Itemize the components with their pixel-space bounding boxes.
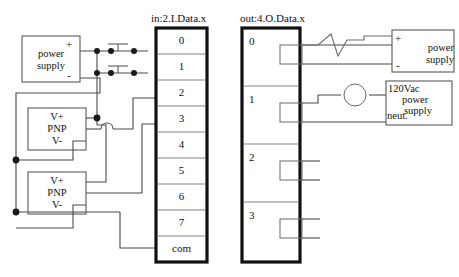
sensor-2-vplus: V+ <box>28 175 86 186</box>
sensor-2-vminus: V- <box>28 199 86 210</box>
sensor-1-vminus: V- <box>28 135 86 146</box>
right-power-supply-label-1: power <box>400 42 454 53</box>
wire-com-to-block <box>120 212 156 248</box>
ac-power-supply-label-1: 120Vac <box>388 83 420 94</box>
left-power-supply-minus: - <box>67 70 71 81</box>
output-block-outline <box>242 28 300 262</box>
input-terminal-2[interactable]: 2 <box>156 87 207 98</box>
input-terminal-5[interactable]: 5 <box>156 165 207 176</box>
input-terminal-7[interactable]: 7 <box>156 217 207 228</box>
sensor-1-vplus: V+ <box>28 111 86 122</box>
output-terminal-2[interactable]: 2 <box>249 152 255 163</box>
output-terminal-0[interactable]: 0 <box>249 36 255 47</box>
input-block-title: in:2.I.Data.x <box>151 13 206 25</box>
wire-out1-hi <box>302 95 341 103</box>
ac-power-supply-label-3: supply <box>404 105 432 116</box>
right-power-supply-label-2: supply <box>400 54 454 65</box>
wiring-diagram: in:2.I.Data.x out:4.O.Data.x 0 1 2 3 4 5… <box>0 0 459 277</box>
input-terminal-3[interactable]: 3 <box>156 113 207 124</box>
wire-s2-vplus <box>86 125 106 182</box>
wire-s2-sig <box>86 124 156 193</box>
left-power-supply-label-2: supply <box>22 60 80 71</box>
wire-s1-sig-hop <box>101 123 113 129</box>
ac-power-supply-neutral: neut. <box>387 110 408 121</box>
right-power-supply-minus: - <box>396 60 400 71</box>
sensor-2-type: PNP <box>28 187 86 198</box>
output-terminal-3[interactable]: 3 <box>249 210 255 221</box>
ac-power-supply-label-2: power <box>402 94 428 105</box>
right-power-supply-plus: + <box>395 33 401 44</box>
sensor-1-type: PNP <box>28 123 86 134</box>
input-terminal-0[interactable]: 0 <box>156 35 207 46</box>
lamp-load-symbol <box>344 84 366 106</box>
input-terminal-1[interactable]: 1 <box>156 61 207 72</box>
input-terminal-4[interactable]: 4 <box>156 139 207 150</box>
input-terminal-6[interactable]: 6 <box>156 191 207 202</box>
left-power-supply-plus: + <box>66 39 72 50</box>
output-block-title: out:4.O.Data.x <box>240 13 305 25</box>
output-terminal-1[interactable]: 1 <box>249 94 255 105</box>
input-terminal-com[interactable]: com <box>156 243 207 254</box>
